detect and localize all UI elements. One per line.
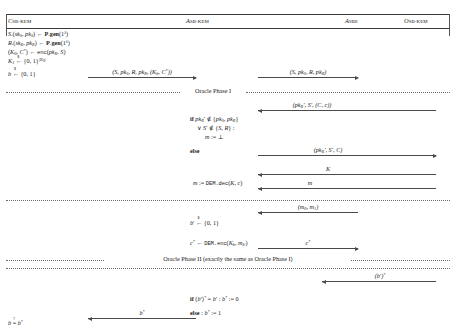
- column-header-challenger: CSB-KEM: [8, 18, 31, 25]
- phase-separator-2: Oracle Phase II (exactly the same as Ora…: [6, 256, 450, 264]
- column-header-adversary-kem: ASB-KEM: [186, 18, 209, 25]
- label-message-8: c*: [306, 240, 311, 246]
- label-message-1: (S, pkS, R, pkR, (Kb, C*)): [112, 69, 172, 77]
- arrow-message-2: [258, 77, 358, 78]
- oracle-subscript: SB-KEM: [409, 19, 428, 24]
- bit-choice-line: b′ ←$ {0, 1}: [190, 220, 219, 226]
- challenger-output-line: b =? b*: [8, 320, 23, 326]
- oracle-else: else: [190, 148, 200, 154]
- setup-line-4: K1 ←$ {0, 1}|K0|: [8, 58, 46, 66]
- label-message-6: m: [308, 180, 312, 186]
- frame-right-tick: [449, 14, 450, 28]
- frame-left-tick-lower: [6, 28, 7, 36]
- phase1-dots-right: [246, 92, 450, 93]
- dem-encrypt-line: c* ← DEM.enc(Kb, mb′): [190, 240, 248, 248]
- phase2-dots-right: [351, 260, 450, 261]
- adversary-kem-subscript: SB-KEM: [190, 19, 209, 24]
- oracle-if-body: m := ⊥: [205, 134, 224, 140]
- challenger-subscript: SB-KEM: [12, 19, 31, 24]
- label-message-3: (pkR′, S′, (C, c)): [293, 102, 332, 109]
- label-message-9: (b′)*: [375, 273, 386, 279]
- setup-line-2: R.(skR, pkR) ← P.gen(1λ): [8, 40, 70, 48]
- phase1-end-dots: [6, 200, 450, 201]
- final-else-line: else : b* := 1: [190, 310, 221, 316]
- adversary-sbe-subscript: SBE: [349, 19, 358, 24]
- label-message-2: (S, pkS, R, pkR): [290, 69, 327, 76]
- header-bottom-rule: [6, 28, 450, 29]
- setup-line-5: b ←$ {0, 1}: [8, 71, 36, 77]
- arrow-message-1: [88, 77, 196, 78]
- label-message-5: K: [326, 166, 330, 172]
- phase2-label: Oracle Phase II (exactly the same as Ora…: [162, 256, 293, 262]
- frame-left-tick: [6, 14, 7, 28]
- arrow-message-8: [258, 248, 358, 249]
- arrow-message-9: [322, 281, 436, 282]
- final-check-line: if (b′)* = b′ : b* := 0: [190, 296, 239, 302]
- arrow-message-7: [258, 212, 358, 213]
- table-top-rule: [6, 14, 450, 15]
- oracle-decrypt-line: m := DEM.dec(K, c): [193, 180, 242, 187]
- arrow-message-3: [258, 110, 436, 111]
- arrow-message-4: [258, 155, 436, 156]
- protocol-diagram: CSB-KEM ASB-KEM ASBE OSB-KEM S.(skS, pkS…: [0, 0, 456, 336]
- arrow-message-5: [258, 174, 436, 175]
- label-message-4: (pkR′, S′, C): [314, 147, 343, 154]
- phase-separator-1: Oracle Phase I: [6, 88, 450, 96]
- arrow-message-10: [88, 318, 196, 319]
- phase1-label: Oracle Phase I: [194, 88, 232, 94]
- oracle-if-line-2: ∨ S′ ∉ {S, R} :: [197, 125, 234, 131]
- column-header-adversary-sbe: ASBE: [345, 18, 358, 25]
- frame-right-tick-lower: [449, 28, 450, 36]
- phase1-dots-left: [6, 92, 180, 93]
- label-message-7: (m0, m1): [298, 204, 318, 211]
- arrow-message-6: [258, 188, 436, 189]
- phase2-dots-left: [6, 260, 104, 261]
- setup-line-1: S.(skS, pkS) ← P.gen(1λ): [8, 31, 68, 39]
- phase2-end-dots: [6, 268, 450, 269]
- label-message-10: b*: [139, 310, 144, 316]
- oracle-if-line-1: if pkR′ ∉ {pkS, pkR}: [190, 116, 238, 123]
- column-header-oracle: OSB-KEM: [404, 18, 428, 25]
